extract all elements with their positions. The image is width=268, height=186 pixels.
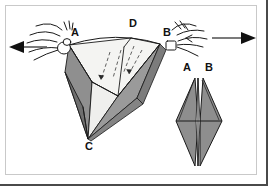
- left-hand: [27, 24, 71, 60]
- diamond-left-half: [176, 78, 198, 166]
- diamond-right-half: [200, 78, 222, 166]
- figure-frame: A D B C A B: [0, 0, 268, 186]
- label-A-right: A: [183, 61, 191, 73]
- label-B-right: B: [205, 61, 213, 73]
- folding-diagram: A D B C A B: [0, 0, 268, 186]
- label-C: C: [85, 140, 93, 152]
- right-motion-ticks: [175, 21, 188, 30]
- label-D: D: [129, 17, 137, 29]
- left-figure-group: [65, 37, 166, 141]
- right-figure-group: [176, 78, 222, 166]
- label-A-left: A: [71, 26, 79, 38]
- right-pull-arrow: [212, 32, 256, 44]
- label-B-left: B: [163, 26, 171, 38]
